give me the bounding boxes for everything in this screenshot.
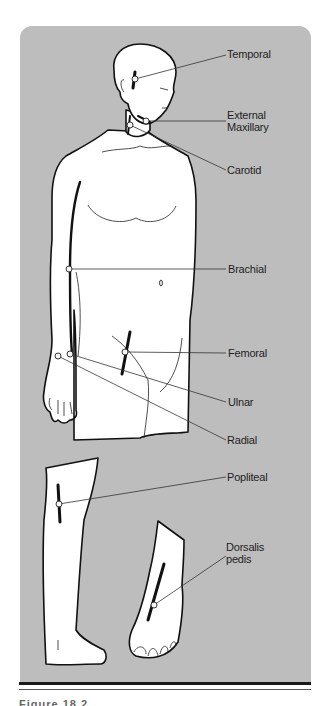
- label-brachial: Brachial: [228, 263, 266, 275]
- label-dorsalis-pedis-line1: Dorsalis: [226, 541, 264, 553]
- pulse-point-external-maxillary: [143, 118, 149, 124]
- pulse-point-radial: [55, 353, 61, 359]
- label-femoral: Femoral: [228, 347, 267, 359]
- label-popliteal: Popliteal: [227, 471, 267, 483]
- pulse-points-illustration: [0, 0, 326, 706]
- pulse-point-temporal: [132, 76, 138, 82]
- divider-thick: [19, 682, 311, 685]
- divider-thin: [19, 689, 311, 690]
- figure-caption: Figure 18.2: [19, 698, 88, 706]
- pulse-point-femoral: [122, 349, 128, 355]
- pulse-point-carotid: [127, 122, 133, 128]
- label-dorsalis-pedis-line2: pedis: [226, 553, 251, 565]
- pulse-point-popliteal: [56, 501, 62, 507]
- pulse-point-brachial: [66, 266, 72, 272]
- label-temporal: Temporal: [227, 48, 271, 60]
- label-carotid: Carotid: [227, 164, 261, 176]
- pulse-point-dorsalis-pedis: [151, 602, 157, 608]
- label-external-maxillary-line1: External: [227, 109, 266, 121]
- label-external-maxillary-line2: Maxillary: [227, 121, 269, 133]
- pulse-point-ulnar: [67, 351, 73, 357]
- upper-body-figure: [43, 44, 196, 440]
- label-radial: Radial: [227, 434, 257, 446]
- leg-figure: [43, 458, 106, 665]
- label-ulnar: Ulnar: [228, 396, 253, 408]
